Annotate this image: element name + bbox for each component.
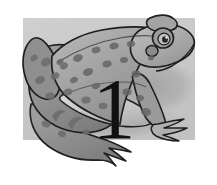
frog-illustration: 1 xyxy=(0,0,217,185)
frog-tympanum xyxy=(146,46,158,57)
frog-eye-highlight xyxy=(165,36,167,38)
numeral-one: 1 xyxy=(93,61,136,157)
illustration-container: 1 xyxy=(0,0,217,185)
